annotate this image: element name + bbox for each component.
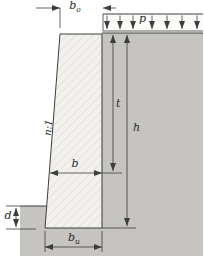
- label-depth-t: t: [116, 98, 120, 109]
- label-embedment-d: d: [3, 210, 13, 221]
- surcharge-load-strip: [103, 14, 203, 31]
- label-base-width: bu: [64, 232, 84, 245]
- label-mid-width: b: [70, 158, 80, 169]
- wall-body: [45, 34, 102, 228]
- label-slope: n:1: [41, 116, 54, 139]
- diagram-canvas: [0, 0, 204, 267]
- label-top-width: bo: [64, 0, 86, 13]
- retaining-wall-diagram: bo p n:1 t h b d bu: [0, 0, 204, 267]
- label-height-h: h: [133, 122, 140, 133]
- label-surcharge: p: [139, 13, 146, 24]
